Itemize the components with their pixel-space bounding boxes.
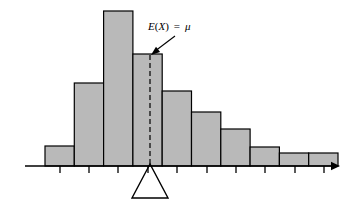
annotation-label-equals: =: [174, 20, 180, 32]
mean-annotation-label: E(X)=μ: [147, 20, 191, 33]
figure-container: E(X)=μ: [0, 0, 340, 206]
histogram-svg: E(X)=μ: [0, 0, 340, 206]
histogram-bar: [45, 146, 74, 166]
axis-ticks: [60, 166, 324, 173]
histogram-bar: [133, 54, 162, 166]
histogram-bar: [250, 147, 279, 166]
histogram-bar: [192, 112, 221, 166]
histogram-bar: [162, 91, 191, 166]
histogram-bars: [45, 11, 338, 166]
balance-point-triangle-icon: [132, 164, 168, 198]
histogram-bar: [74, 83, 103, 166]
annotation-label-mu: μ: [184, 20, 191, 32]
histogram-bar: [221, 129, 250, 166]
histogram-bar: [104, 11, 133, 166]
histogram-bar: [279, 153, 308, 166]
annotation-label-close-paren: ): [165, 20, 169, 33]
annotation-pointer-arrow-icon: [151, 36, 175, 55]
